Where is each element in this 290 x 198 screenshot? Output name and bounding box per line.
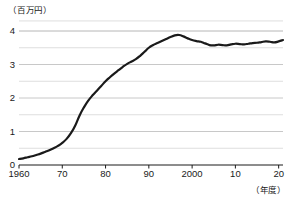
data-line-series — [19, 35, 283, 159]
chart-container: （百万円） 01234 196070809020001020 （年度） — [0, 0, 290, 198]
x-axis-tick-marks — [19, 165, 279, 169]
grid-minor-lines — [19, 21, 283, 148]
chart-plot-area — [0, 0, 290, 198]
